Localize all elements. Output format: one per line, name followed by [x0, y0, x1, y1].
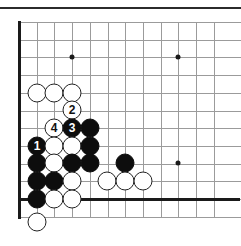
white-stone[interactable]	[45, 84, 64, 103]
white-stone[interactable]	[134, 172, 153, 191]
grid-line-vertical	[178, 22, 179, 218]
white-stone[interactable]	[45, 154, 64, 173]
grid-line-vertical	[196, 22, 197, 218]
grid-line-horizontal	[19, 22, 241, 23]
white-stone[interactable]	[98, 172, 117, 191]
go-diagram-figure: 2431	[0, 0, 241, 246]
black-stone[interactable]	[81, 119, 100, 138]
grid-line-horizontal	[19, 75, 241, 76]
white-stone[interactable]	[63, 172, 82, 191]
star-point	[176, 161, 181, 166]
star-point	[70, 55, 75, 60]
white-stone[interactable]	[45, 190, 64, 209]
move-stone-4[interactable]: 4	[45, 119, 64, 138]
star-point	[176, 55, 181, 60]
move-stone-2[interactable]: 2	[63, 101, 82, 120]
grid-line-horizontal	[19, 57, 241, 58]
grid-line-horizontal	[19, 217, 241, 218]
grid-line-horizontal	[19, 40, 241, 41]
white-stone[interactable]	[28, 213, 47, 232]
black-stone[interactable]	[63, 154, 82, 173]
black-stone[interactable]	[45, 172, 64, 191]
grid-line-vertical	[161, 22, 162, 218]
black-stone[interactable]	[116, 154, 135, 173]
black-stone[interactable]	[81, 154, 100, 173]
grid-line-horizontal	[19, 111, 241, 112]
grid-line-vertical	[214, 22, 215, 218]
go-board[interactable]: 2431	[0, 9, 241, 246]
move-stone-3[interactable]: 3	[63, 119, 82, 138]
white-stone[interactable]	[116, 172, 135, 191]
white-stone[interactable]	[63, 190, 82, 209]
board-edge-left	[18, 21, 21, 219]
